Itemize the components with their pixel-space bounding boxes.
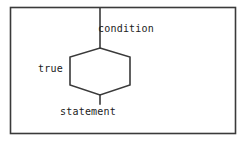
statement-label: statement bbox=[60, 107, 116, 117]
true-branch-label: true bbox=[38, 64, 63, 74]
syntax-diagram-figure: condition true statement bbox=[0, 0, 250, 142]
condition-label: condition bbox=[98, 24, 154, 34]
